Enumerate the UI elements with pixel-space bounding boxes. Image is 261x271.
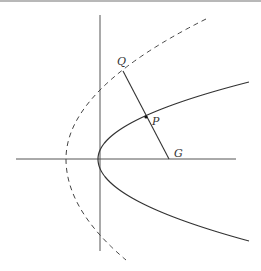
point-p: [144, 115, 147, 118]
label-q: Q: [117, 55, 126, 68]
diagram-canvas: Q P G: [0, 0, 261, 271]
normal-line: [123, 71, 169, 159]
dashed-parabola-curve: [66, 19, 206, 260]
label-p: P: [151, 115, 160, 128]
label-g: G: [174, 147, 183, 160]
parabola-curve: [98, 82, 249, 241]
